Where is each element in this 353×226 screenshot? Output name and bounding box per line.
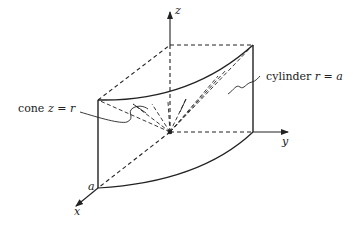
- top-arc: [98, 45, 253, 100]
- x-axis: [76, 188, 98, 206]
- cone-cylinder-diagram: z y x a cone z = r cylinder r = a: [0, 0, 353, 226]
- z-axis-label: z: [175, 5, 181, 16]
- cone-label-equation: z = r: [48, 102, 75, 115]
- top-edge-back-left: [98, 45, 170, 100]
- x-axis-label: x: [74, 206, 80, 217]
- cone-label: cone z = r: [18, 103, 75, 114]
- cylinder-leader: [228, 76, 260, 94]
- cylinder-label: cylinder r = a: [266, 71, 343, 82]
- bottom-arc: [98, 132, 253, 188]
- y-axis-label: y: [282, 136, 288, 147]
- cone-generators: [98, 45, 253, 132]
- cylinder-label-equation: r = a: [315, 70, 343, 83]
- cone-leader: [80, 106, 148, 122]
- origin-apex: [168, 130, 172, 134]
- radius-a-label: a: [88, 181, 95, 192]
- cylinder-label-prefix: cylinder: [266, 70, 315, 83]
- cone-label-prefix: cone: [18, 102, 48, 115]
